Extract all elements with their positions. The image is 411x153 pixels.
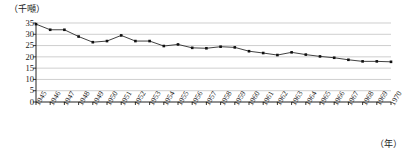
y-tick-label: 20	[26, 53, 35, 62]
data-point-marker	[35, 23, 38, 26]
data-point-marker	[163, 45, 166, 48]
data-point-marker	[248, 50, 251, 53]
data-point-marker	[219, 45, 222, 48]
y-axis-unit-label: （千噸）	[9, 4, 45, 15]
data-point-marker	[290, 51, 293, 54]
data-point-marker	[134, 40, 137, 43]
data-point-marker	[262, 52, 265, 55]
data-point-marker	[234, 46, 237, 49]
data-point-marker	[63, 28, 66, 31]
data-series-line	[36, 24, 391, 62]
data-point-marker	[319, 55, 322, 58]
data-point-marker	[191, 47, 194, 50]
data-point-marker	[361, 60, 364, 63]
data-point-marker	[276, 54, 279, 57]
data-point-marker	[49, 28, 52, 31]
data-point-marker	[205, 47, 208, 50]
x-tick-label: 1970	[389, 90, 404, 107]
data-point-marker	[120, 34, 123, 37]
data-point-marker	[177, 43, 180, 46]
x-axis-unit-label: （年）	[375, 139, 402, 150]
y-tick-label: 35	[26, 19, 35, 28]
x-axis-tick-labels: 1945194619471948194919501951195219531954…	[36, 103, 391, 137]
data-point-marker	[305, 53, 308, 56]
data-point-marker	[106, 40, 109, 43]
chart-figure: （千噸） 05101520253035 19451946194719481949…	[0, 0, 411, 153]
y-tick-label: 25	[26, 41, 35, 50]
y-tick-label: 15	[26, 64, 35, 73]
y-tick-label: 30	[26, 30, 35, 39]
data-point-marker	[347, 58, 350, 61]
gridlines-group	[36, 23, 391, 91]
data-point-marker	[390, 61, 393, 64]
data-point-marker	[376, 60, 379, 63]
y-axis-tick-labels: 05101520253035	[8, 23, 34, 102]
y-tick-label: 10	[26, 75, 35, 84]
data-point-marker	[148, 40, 151, 43]
data-point-marker	[92, 41, 95, 44]
data-point-marker	[333, 56, 336, 59]
data-point-marker	[77, 35, 80, 38]
